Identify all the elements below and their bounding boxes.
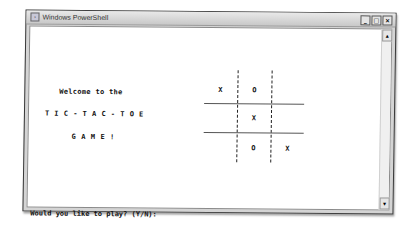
board-cell: X [240,114,268,122]
console-output: Welcome to the TIC-TAC-TOE GAME! X O X O… [27,26,381,209]
scroll-up-button[interactable]: ▲ [382,30,392,42]
board-horizontal-line [204,103,304,105]
game-title-text: TIC-TAC-TOE [45,110,149,119]
window-title: Windows PowerShell [42,14,108,22]
window-controls: _ □ × [360,15,392,25]
maximize-button[interactable]: □ [371,15,381,25]
minimize-button[interactable]: _ [360,15,370,25]
game-text: GAME! [72,133,120,141]
powershell-icon: › [30,12,39,21]
board-cell: X [206,86,234,94]
vertical-scrollbar[interactable]: ▲ ▼ [378,29,391,209]
tic-tac-toe-board: X O X O X [203,68,305,169]
close-button[interactable]: × [382,16,392,26]
board-vertical-line [236,70,238,162]
board-cell: O [239,144,267,152]
scroll-down-button[interactable]: ▼ [379,197,389,209]
welcome-text: Welcome to the [59,88,122,97]
powershell-window: › Windows PowerShell _ □ × Welcome to th… [22,9,396,214]
board-cell: O [240,86,268,94]
console-area[interactable]: Welcome to the TIC-TAC-TOE GAME! X O X O… [26,25,392,210]
board-cell: X [273,145,301,153]
board-horizontal-line [204,132,304,134]
board-vertical-line [270,71,272,163]
play-prompt: Would you like to play? (Y/N): [30,209,157,218]
